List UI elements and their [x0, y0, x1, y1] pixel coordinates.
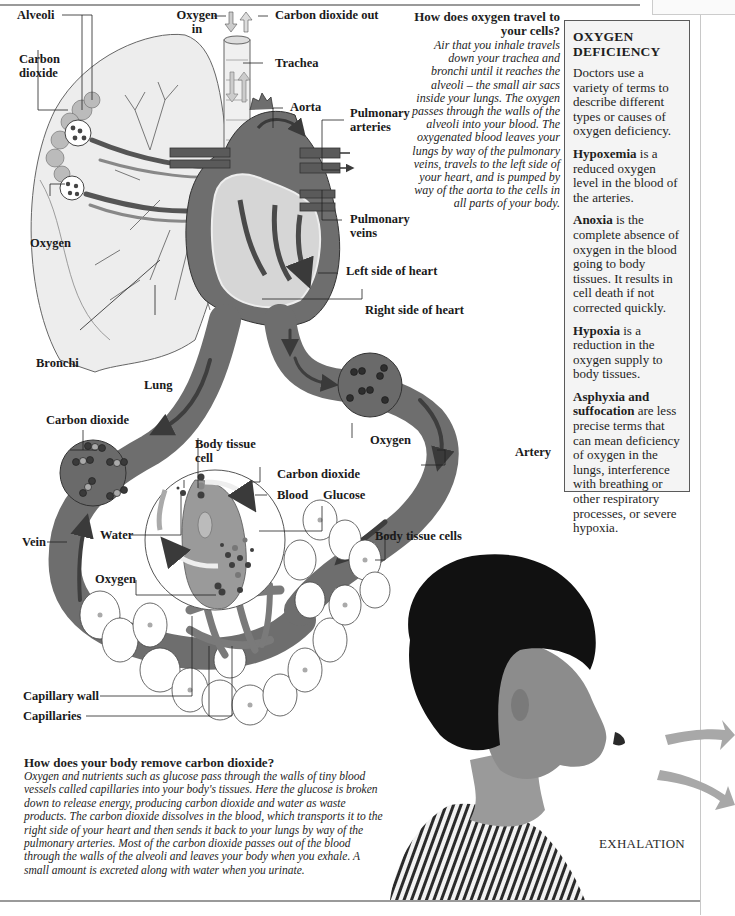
term-name: Hypoxia — [573, 323, 620, 338]
label-capillary-wall: Capillary wall — [23, 689, 99, 703]
exhalation-photo — [390, 554, 625, 900]
term-anoxia: Anoxia is the complete absence of oxygen… — [573, 213, 683, 315]
deficiency-intro: Doctors use a variety of terms to descri… — [573, 66, 683, 139]
label-oxygen-lung: Oxygen — [30, 236, 71, 250]
label-oxygen-cell: Oxygen — [95, 572, 136, 586]
magnified-cell-view — [145, 470, 285, 610]
label-water: Water — [100, 528, 133, 542]
term-definition: is the complete absence of oxygen in the… — [573, 212, 679, 315]
label-oxygen-in: Oxygen in — [174, 8, 220, 36]
label-body-tissue-cell: Body tissue cell — [195, 437, 275, 465]
label-aorta: Aorta — [290, 100, 321, 114]
co2-removal-heading: How does your body remove carbon dioxide… — [24, 756, 384, 770]
label-left-side-heart: Left side of heart — [346, 264, 437, 278]
label-pulmonary-veins: Pulmonary veins — [350, 212, 420, 240]
oxygen-travel-body: Air that you inhale travels down your tr… — [410, 39, 560, 211]
oxygen-travel-section: How does oxygen travel to your cells? Ai… — [410, 10, 560, 211]
label-artery: Artery — [515, 445, 551, 459]
co2-removal-body: Oxygen and nutrients such as glucose pas… — [24, 770, 384, 877]
label-blood: Blood — [277, 488, 308, 502]
term-hypoxia: Hypoxia is a reduction in the oxygen sup… — [573, 324, 683, 382]
oxygen-travel-heading: How does oxygen travel to your cells? — [410, 10, 560, 38]
label-carbon-dioxide-lung: Carbon dioxide — [19, 52, 69, 80]
label-lung: Lung — [144, 378, 173, 392]
label-carbon-dioxide-cell: Carbon dioxide — [277, 467, 360, 481]
label-bronchi: Bronchi — [36, 356, 79, 370]
term-name: Anoxia — [573, 212, 613, 227]
label-glucose: Glucose — [323, 488, 365, 502]
label-oxygen-artery: Oxygen — [370, 433, 411, 447]
term-hypoxemia: Hypoxemia is a reduced oxygen level in t… — [573, 147, 683, 205]
term-asphyxia: Asphyxia and suffocation are less precis… — [573, 390, 683, 536]
label-carbon-dioxide-out: Carbon dioxide out — [275, 8, 379, 22]
label-trachea: Trachea — [275, 56, 319, 70]
exhalation-caption: EXHALATION — [599, 836, 685, 852]
term-definition: are less precise terms that can mean def… — [573, 403, 680, 535]
label-vein: Vein — [22, 535, 46, 549]
label-capillaries: Capillaries — [23, 709, 81, 723]
label-carbon-dioxide-vein: Carbon dioxide — [46, 413, 129, 427]
co2-removal-section: How does your body remove carbon dioxide… — [24, 756, 384, 877]
oxygen-deficiency-sidebar: OXYGEN DEFICIENCY Doctors use a variety … — [564, 20, 690, 492]
label-body-tissue-cells: Body tissue cells — [375, 529, 462, 543]
term-name: Hypoxemia — [573, 146, 637, 161]
label-alveoli: Alveoli — [17, 8, 55, 22]
label-right-side-heart: Right side of heart — [365, 303, 464, 317]
deficiency-title: OXYGEN DEFICIENCY — [573, 29, 683, 59]
exhale-arrows — [657, 720, 735, 810]
